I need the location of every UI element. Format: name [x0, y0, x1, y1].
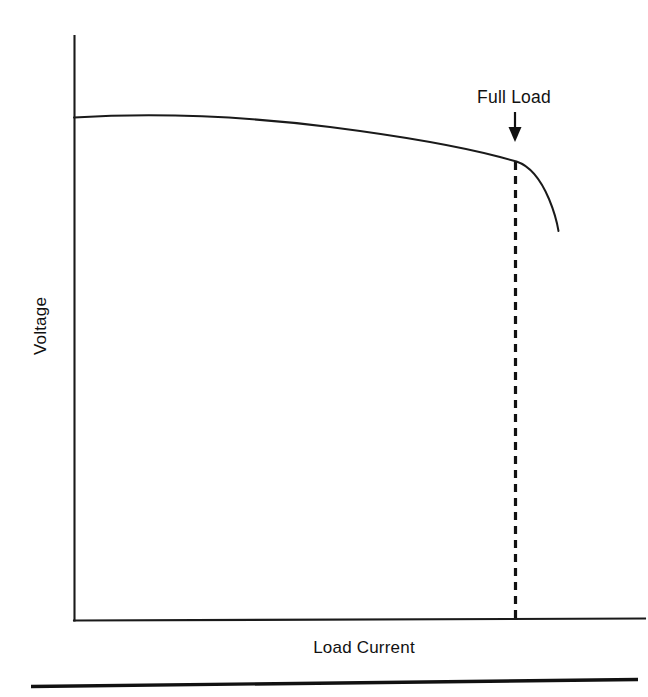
voltage-curve: [74, 115, 559, 231]
chart-canvas: Full Load Load Current Voltage: [0, 0, 648, 697]
x-axis-line: [74, 619, 645, 621]
full-load-arrow-icon: [509, 112, 522, 142]
x-axis-label: Load Current: [313, 638, 415, 657]
footer-divider-rule: [31, 680, 638, 687]
full-load-label: Full Load: [477, 87, 551, 107]
voltage-load-current-figure: Full Load Load Current Voltage: [0, 0, 648, 697]
y-axis-label: Voltage: [31, 297, 50, 355]
